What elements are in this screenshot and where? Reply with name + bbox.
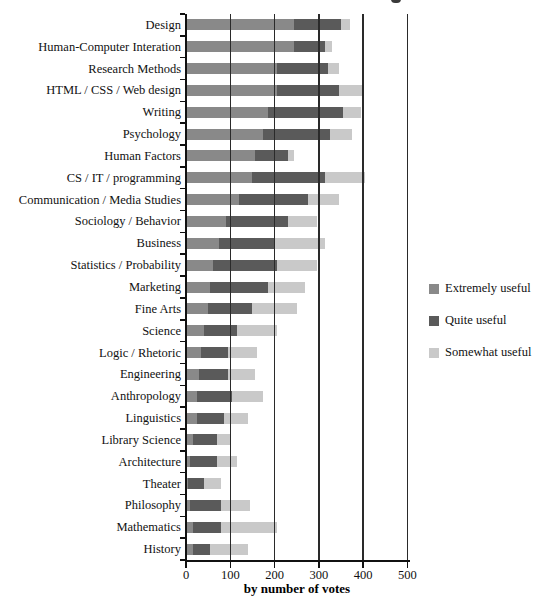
- bar-segment-somewhat-useful: [217, 434, 230, 445]
- bar-segment-extremely-useful: [186, 150, 255, 161]
- legend-item-quite-useful: Quite useful: [429, 314, 531, 327]
- y-axis-tick: [180, 35, 185, 37]
- bar-segment-extremely-useful: [186, 216, 226, 227]
- bar-segment-quite-useful: [190, 500, 221, 511]
- legend-swatch-quite-useful: [429, 316, 439, 326]
- category-label: Sociology / Behavior: [75, 215, 181, 228]
- bar-segment-quite-useful: [197, 391, 232, 402]
- legend-label: Extremely useful: [445, 282, 531, 295]
- gridline-100: [230, 14, 232, 560]
- bar-segment-extremely-useful: [186, 260, 213, 271]
- bar-segment-somewhat-useful: [330, 129, 352, 140]
- bar-segment-somewhat-useful: [204, 478, 222, 489]
- category-label: Science: [142, 324, 181, 337]
- category-label: Human Factors: [104, 150, 181, 163]
- bar-segment-quite-useful: [252, 172, 325, 183]
- bar-segment-extremely-useful: [186, 303, 208, 314]
- category-label: Writing: [143, 106, 181, 119]
- bar-segment-quite-useful: [277, 85, 339, 96]
- y-axis-tick: [180, 101, 185, 103]
- category-label: Fine Arts: [135, 303, 181, 316]
- bar-segment-quite-useful: [294, 41, 325, 52]
- y-axis-tick: [180, 341, 185, 343]
- category-label: Psychology: [123, 128, 181, 141]
- y-axis-tick: [180, 516, 185, 518]
- x-axis-tick: [362, 562, 364, 568]
- bar-segment-extremely-useful: [186, 63, 277, 74]
- bar-segment-extremely-useful: [186, 41, 294, 52]
- legend-swatch-somewhat-useful: [429, 348, 439, 358]
- y-axis-tick: [180, 363, 185, 365]
- y-axis-tick: [180, 13, 185, 15]
- category-label: HTML / CSS / Web design: [46, 84, 181, 97]
- legend-label: Somewhat useful: [445, 346, 531, 359]
- bar-segment-quite-useful: [201, 347, 228, 358]
- category-label: Mathematics: [116, 521, 181, 534]
- y-axis-tick: [180, 559, 185, 561]
- bar-segment-somewhat-useful: [224, 413, 248, 424]
- bar-segment-extremely-useful: [186, 238, 219, 249]
- category-label: Human-Computer Interation: [38, 41, 181, 54]
- bar-segment-extremely-useful: [186, 129, 263, 140]
- x-axis-title: by number of votes: [186, 581, 408, 597]
- bar-segment-extremely-useful: [186, 107, 268, 118]
- y-axis-tick: [180, 450, 185, 452]
- x-axis-tick: [185, 562, 187, 568]
- bar-segment-somewhat-useful: [328, 63, 339, 74]
- bar-segment-quite-useful: [199, 369, 228, 380]
- x-axis-tick: [318, 562, 320, 568]
- cropped-title-fragment: [391, 0, 401, 3]
- x-axis-line: [185, 560, 410, 562]
- bar-segment-somewhat-useful: [339, 85, 363, 96]
- bar-segment-extremely-useful: [186, 19, 294, 30]
- y-axis-tick: [180, 275, 185, 277]
- bar-segment-somewhat-useful: [221, 500, 250, 511]
- y-axis-tick: [180, 385, 185, 387]
- y-axis-tick: [180, 188, 185, 190]
- bar-segment-somewhat-useful: [277, 260, 317, 271]
- bar-segment-somewhat-useful: [341, 19, 350, 30]
- category-label: Library Science: [102, 434, 181, 447]
- category-label: Architecture: [119, 455, 181, 468]
- legend: Extremely useful Quite useful Somewhat u…: [429, 282, 531, 378]
- y-axis-tick: [180, 406, 185, 408]
- category-label: CS / IT / programming: [67, 172, 181, 185]
- x-axis-tick: [407, 562, 409, 568]
- bar-segment-somewhat-useful: [343, 107, 361, 118]
- x-axis-tick: [274, 562, 276, 568]
- y-axis-tick: [180, 122, 185, 124]
- bar-segment-quite-useful: [210, 282, 268, 293]
- legend-swatch-extremely-useful: [429, 284, 439, 294]
- y-axis-tick: [180, 57, 185, 59]
- bar-segment-quite-useful: [226, 216, 288, 227]
- bar-segment-quite-useful: [204, 325, 237, 336]
- bar-segment-somewhat-useful: [217, 456, 237, 467]
- y-axis-tick: [180, 144, 185, 146]
- legend-item-somewhat-useful: Somewhat useful: [429, 346, 531, 359]
- bar-segment-extremely-useful: [186, 413, 197, 424]
- category-label: Communication / Media Studies: [19, 193, 181, 206]
- y-axis-tick: [180, 210, 185, 212]
- y-axis-tick: [180, 537, 185, 539]
- bar-segment-quite-useful: [219, 238, 274, 249]
- bar-segment-quite-useful: [197, 413, 224, 424]
- category-label: Engineering: [120, 368, 181, 381]
- bar-segment-extremely-useful: [186, 194, 239, 205]
- category-label: Design: [146, 19, 181, 32]
- bar-segment-extremely-useful: [186, 347, 201, 358]
- bar-segment-somewhat-useful: [288, 150, 295, 161]
- category-label: Business: [137, 237, 181, 250]
- category-label: Theater: [143, 477, 181, 490]
- category-label: Anthropology: [111, 390, 181, 403]
- bar-segment-quite-useful: [193, 522, 222, 533]
- category-label: Research Methods: [88, 62, 181, 75]
- category-label: Philosophy: [125, 499, 181, 512]
- bar-segment-somewhat-useful: [232, 391, 263, 402]
- bar-segment-extremely-useful: [186, 172, 252, 183]
- y-axis-tick: [180, 232, 185, 234]
- bar-segment-quite-useful: [213, 260, 277, 271]
- y-axis-tick: [180, 494, 185, 496]
- legend-label: Quite useful: [445, 314, 506, 327]
- x-axis-tick: [230, 562, 232, 568]
- bar-segment-somewhat-useful: [308, 194, 339, 205]
